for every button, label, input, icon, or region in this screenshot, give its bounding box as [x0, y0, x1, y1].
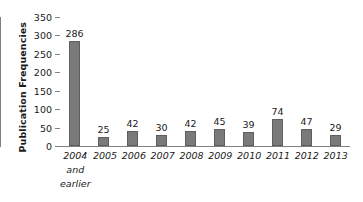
bar-value-label: 29 [321, 122, 350, 133]
bar-slot: 42 [176, 17, 205, 146]
y-tick-mark [55, 146, 60, 147]
x-tick-label-line: 2010 [235, 149, 264, 163]
bar-slot: 30 [147, 17, 176, 146]
bar [156, 135, 167, 146]
bar [214, 129, 225, 146]
publication-frequencies-bar-chart: Publication Frequencies 0501001502002503… [0, 0, 363, 202]
x-tick-label: 2013 [321, 149, 350, 191]
x-tick-label-line: 2007 [148, 149, 177, 163]
bar-slot: 29 [321, 17, 350, 146]
y-tick-label: 0 [0, 141, 52, 152]
y-tick-label: 250 [0, 48, 52, 59]
bar-value-label: 30 [147, 122, 176, 133]
x-tick-label-line: 2011 [264, 149, 293, 163]
x-tick-label-line: 2013 [321, 149, 350, 163]
x-tick-label-line: 2012 [292, 149, 321, 163]
bar-value-label: 25 [89, 124, 118, 135]
y-tick-label: 50 [0, 122, 52, 133]
bar-slot: 25 [89, 17, 118, 146]
x-tick-label-line: 2005 [91, 149, 120, 163]
bar-value-label: 286 [60, 28, 89, 39]
x-tick-label: 2006 [119, 149, 148, 191]
bar-slot: 74 [263, 17, 292, 146]
y-tick-label: 150 [0, 85, 52, 96]
y-tick-label: 300 [0, 30, 52, 41]
bar-value-label: 42 [118, 118, 147, 129]
x-tick-label-line: 2009 [206, 149, 235, 163]
bar-value-label: 39 [234, 119, 263, 130]
bar-value-label: 45 [205, 116, 234, 127]
bar [69, 41, 80, 146]
bar [272, 119, 283, 146]
bar-slot: 45 [205, 17, 234, 146]
bar-slot: 286 [60, 17, 89, 146]
y-tick-label: 350 [0, 12, 52, 23]
bar [127, 131, 138, 146]
x-tick-label-line: 2004 [60, 149, 91, 163]
bar-slot: 39 [234, 17, 263, 146]
y-tick-label: 200 [0, 67, 52, 78]
bar-slot: 42 [118, 17, 147, 146]
x-tick-label-line: 2006 [119, 149, 148, 163]
bar-value-label: 47 [292, 116, 321, 127]
x-tick-label-line: 2008 [177, 149, 206, 163]
x-tick-label: 2010 [235, 149, 264, 191]
x-axis-line [60, 146, 350, 147]
x-tick-label: 2008 [177, 149, 206, 191]
x-tick-label-line: earlier [60, 177, 91, 191]
x-tick-label: 2012 [292, 149, 321, 191]
bars-container: 286254230424539744729 [60, 17, 350, 146]
x-tick-label-line: and [60, 163, 91, 177]
bar-slot: 47 [292, 17, 321, 146]
bar-value-label: 42 [176, 118, 205, 129]
x-tick-label: 2004andearlier [60, 149, 91, 191]
bar [185, 131, 196, 146]
x-tick-label: 2011 [264, 149, 293, 191]
bar [98, 137, 109, 146]
bar [243, 132, 254, 146]
x-tick-label: 2009 [206, 149, 235, 191]
bar [301, 129, 312, 146]
x-axis-labels: 2004andearlier20052006200720082009201020… [60, 149, 350, 191]
bar-value-label: 74 [263, 106, 292, 117]
y-tick-label: 100 [0, 104, 52, 115]
x-tick-label: 2007 [148, 149, 177, 191]
bar [330, 135, 341, 146]
x-tick-label: 2005 [91, 149, 120, 191]
